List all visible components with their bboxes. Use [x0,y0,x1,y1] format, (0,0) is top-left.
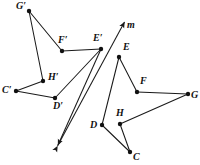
vertex-label-H: H [116,108,124,118]
segment-F-G [137,92,188,94]
vertex-label-C: C [133,152,140,162]
segment-Cp-Dp [16,91,55,98]
vertex-dot-C [128,150,132,154]
segment-Fp-Gp [29,11,62,51]
segment-G-H [120,94,188,124]
vertex-dot-F [135,90,139,94]
vertex-label-F: F [140,76,147,86]
vertex-label-D: D [90,120,97,130]
vertex-label-G: G [191,90,198,100]
vertex-dot-G [186,92,190,96]
vertex-label-F-prime: F′ [58,35,67,45]
segment-C-D [102,125,130,152]
vertex-label-D-prime: D′ [53,101,63,111]
vertex-dot-E-prime [99,47,103,51]
vertex-label-E-prime: E′ [93,33,102,43]
figure-canvas [0,0,200,165]
segment-Ep-Fp [62,49,101,51]
segment-Hp-Cp [16,81,43,91]
vertex-label-H-prime: H′ [48,72,59,82]
vertex-dot-F-prime [60,49,64,53]
segment-Gp-Hp [29,11,43,81]
segment-E-F [119,57,137,92]
vertex-dot-E [117,55,121,59]
line-m-label: m [127,20,135,30]
image-polygon [16,11,101,98]
vertex-dot-H-prime [41,79,45,83]
geometry-figure: G′F′E′H′C′D′EFGHDC m [0,0,200,165]
segment-Ep-Dp [55,49,101,98]
vertex-label-E: E [123,42,130,52]
vertex-label-C-prime: C′ [2,85,11,95]
mapping-ray-e-prime [58,49,101,145]
preimage-polygon [102,57,188,152]
vertex-dot-G-prime [27,9,31,13]
vertex-dot-H [118,122,122,126]
vertex-dot-D [100,123,104,127]
vertex-dot-C-prime [14,89,18,93]
vertex-label-G-prime: G′ [16,1,26,11]
